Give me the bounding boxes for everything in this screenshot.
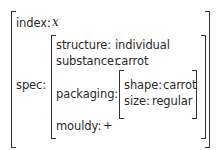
- mouldy-label: mouldy:: [56, 120, 101, 133]
- index-label: index:: [16, 17, 51, 30]
- structure-value: individual: [115, 39, 170, 52]
- packaging-label: packaging:: [56, 88, 118, 101]
- index-value: x: [52, 16, 59, 29]
- mouldy-value: +: [103, 119, 113, 132]
- size-label: size:: [124, 95, 150, 108]
- shape-label: shape:: [124, 79, 162, 92]
- substance-label: substance:: [56, 55, 118, 68]
- structure-label: structure:: [56, 39, 111, 52]
- substance-value: carrot: [115, 55, 148, 68]
- shape-value: carrot: [163, 79, 196, 92]
- spec-label: spec:: [16, 79, 46, 92]
- spec-right-bracket: [201, 35, 206, 139]
- size-value: regular: [152, 95, 192, 108]
